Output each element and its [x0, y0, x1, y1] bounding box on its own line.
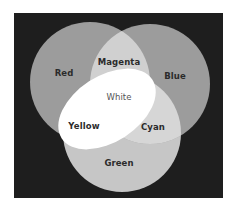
label-green: Green [104, 158, 133, 168]
label-red: Red [55, 68, 74, 78]
label-blue: Blue [164, 71, 186, 81]
venn-diagram [0, 0, 234, 209]
label-magenta: Magenta [98, 57, 141, 67]
label-cyan: Cyan [141, 122, 165, 132]
label-white: White [106, 92, 131, 102]
label-yellow: Yellow [68, 121, 99, 131]
